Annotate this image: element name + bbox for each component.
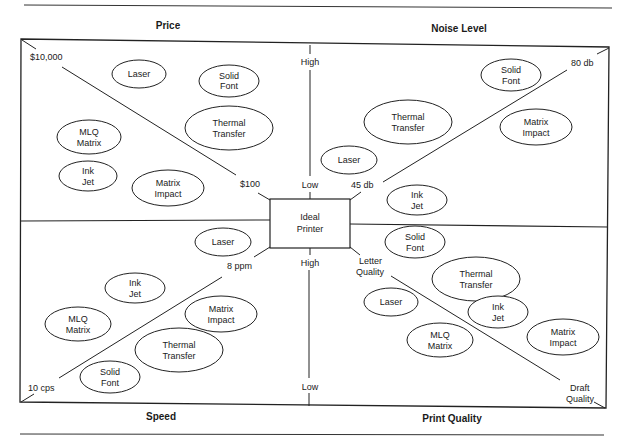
quadrant-title-noise-level: Noise Level (431, 23, 487, 34)
quality-axis-low-label-line1: Draft (570, 383, 590, 393)
vertical-axis-bottom-low-label: Low (302, 382, 319, 392)
svg-text:Transfer: Transfer (391, 123, 424, 133)
svg-text:Ink: Ink (492, 302, 505, 312)
price-axis-high-label: $10,000 (30, 52, 63, 62)
svg-text:Impact: Impact (549, 338, 577, 348)
price-axis-short (22, 40, 36, 49)
noise-node-ink-jet: Ink Jet (387, 185, 447, 215)
svg-text:Laser: Laser (128, 69, 151, 79)
speed-node-matrix-impact: Matrix Impact (185, 296, 257, 332)
noise-node-thermal-transfer: Thermal Transfer (364, 100, 452, 144)
svg-text:Jet: Jet (82, 177, 95, 187)
ideal-printer-label-line1: Ideal (300, 212, 320, 222)
svg-text:Laser: Laser (338, 155, 361, 165)
svg-text:Font: Font (101, 378, 120, 388)
svg-text:Matrix: Matrix (551, 327, 576, 337)
printer-comparison-diagram: Price Noise Level Speed Print Quality Hi… (0, 0, 628, 448)
svg-text:Jet: Jet (129, 289, 142, 299)
quadrant-title-price: Price (156, 20, 181, 31)
svg-text:Matrix: Matrix (524, 117, 549, 127)
svg-text:Matrix: Matrix (77, 138, 102, 148)
speed-axis-to-center (254, 247, 270, 257)
ideal-printer-label-line2: Printer (297, 224, 324, 234)
noise-node-laser: Laser (321, 146, 377, 174)
svg-text:Impact: Impact (207, 315, 235, 325)
svg-text:Laser: Laser (212, 237, 235, 247)
price-axis (62, 67, 236, 175)
price-node-thermal-transfer: Thermal Transfer (185, 106, 273, 150)
noise-node-matrix-impact: Matrix Impact (500, 109, 572, 145)
quality-node-thermal-transfer: Thermal Transfer (432, 257, 520, 301)
price-node-matrix-impact: Matrix Impact (132, 170, 204, 206)
speed-axis-high-label: 8 ppm (227, 261, 252, 271)
quadrant-title-print-quality: Print Quality (422, 413, 482, 424)
noise-axis-to-center (350, 192, 361, 200)
svg-text:Matrix: Matrix (428, 341, 453, 351)
svg-text:Impact: Impact (522, 128, 550, 138)
price-node-mlq-matrix: MLQ Matrix (57, 120, 121, 154)
svg-text:Solid: Solid (219, 71, 239, 81)
price-node-solid-font: Solid Font (199, 65, 259, 97)
svg-text:MLQ: MLQ (68, 314, 88, 324)
speed-node-ink-jet: Ink Jet (105, 273, 165, 303)
price-axis-low-label: $100 (240, 179, 260, 189)
svg-text:MLQ: MLQ (430, 330, 450, 340)
diagram-canvas: Price Noise Level Speed Print Quality Hi… (0, 0, 628, 448)
quality-node-ink-jet: Ink Jet (468, 296, 528, 328)
svg-text:Matrix: Matrix (156, 178, 181, 188)
noise-node-solid-font: Solid Font (481, 59, 541, 91)
svg-text:Transfer: Transfer (162, 351, 195, 361)
quadrant-title-speed: Speed (146, 411, 176, 422)
svg-text:Thermal: Thermal (212, 118, 245, 128)
ideal-printer-box: Ideal Printer (270, 199, 350, 248)
price-node-ink-jet: Ink Jet (59, 161, 117, 191)
svg-text:Jet: Jet (492, 313, 505, 323)
svg-text:Solid: Solid (100, 367, 120, 377)
bottom-rule (20, 434, 604, 435)
svg-text:MLQ: MLQ (79, 127, 99, 137)
svg-text:Thermal: Thermal (391, 112, 424, 122)
vertical-axis-bottom-high-label: High (301, 258, 320, 268)
speed-node-solid-font: Solid Font (80, 361, 140, 393)
noise-axis-high-label: 80 db (571, 58, 594, 68)
speed-node-mlq-matrix: MLQ Matrix (45, 307, 111, 341)
quality-axis-high-label-line1: Letter (359, 256, 382, 266)
quality-node-mlq-matrix: MLQ Matrix (407, 323, 473, 357)
quality-node-solid-font: Solid Font (385, 226, 445, 258)
speed-axis-short (21, 394, 34, 402)
svg-text:Ink: Ink (129, 278, 142, 288)
svg-text:Jet: Jet (411, 201, 424, 211)
vertical-axis-top-high-label: High (301, 57, 320, 67)
svg-text:Matrix: Matrix (209, 304, 234, 314)
noise-axis-short (597, 48, 609, 54)
quality-axis-to-center (350, 247, 360, 255)
svg-text:Transfer: Transfer (212, 129, 245, 139)
svg-text:Transfer: Transfer (459, 280, 492, 290)
svg-text:Matrix: Matrix (66, 325, 91, 335)
svg-text:Font: Font (220, 81, 239, 91)
quality-node-matrix-impact: Matrix Impact (527, 319, 599, 355)
vertical-axis-top-low-label: Low (302, 180, 319, 190)
speed-axis-low-label: 10 cps (28, 383, 55, 393)
price-node-laser: Laser (112, 60, 166, 88)
price-axis-to-center (258, 193, 270, 200)
svg-text:Thermal: Thermal (459, 269, 492, 279)
svg-text:Ink: Ink (82, 166, 95, 176)
svg-text:Font: Font (406, 243, 425, 253)
svg-text:Impact: Impact (154, 189, 182, 199)
horizontal-divider-left (21, 220, 270, 221)
speed-node-laser: Laser (195, 228, 251, 256)
quality-axis-short (594, 402, 605, 408)
svg-text:Solid: Solid (501, 65, 521, 75)
svg-text:Ink: Ink (411, 190, 424, 200)
noise-axis-low-label: 45 db (351, 180, 374, 190)
speed-node-thermal-transfer: Thermal Transfer (135, 328, 223, 372)
top-rule (24, 5, 612, 8)
quality-axis-low-label-line2: Quality (566, 394, 595, 404)
svg-text:Laser: Laser (380, 297, 403, 307)
svg-text:Thermal: Thermal (162, 340, 195, 350)
svg-text:Solid: Solid (405, 232, 425, 242)
svg-text:Font: Font (502, 76, 521, 86)
horizontal-divider-right (350, 224, 608, 227)
quality-axis-high-label-line2: Quality (356, 267, 385, 277)
